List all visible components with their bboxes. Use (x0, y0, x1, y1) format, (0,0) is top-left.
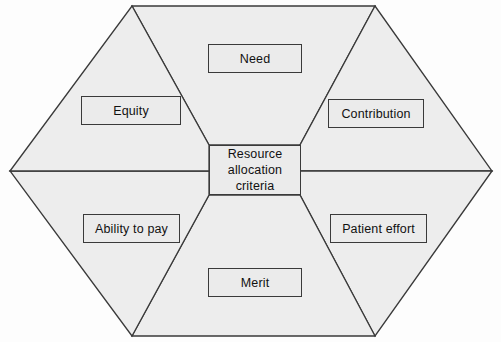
node-merit: Merit (208, 268, 302, 297)
diagram-canvas: Resource allocation criteria Need Contri… (0, 0, 501, 342)
node-need: Need (208, 44, 302, 73)
node-patient-effort: Patient effort (330, 214, 427, 243)
node-contribution-label: Contribution (341, 107, 410, 121)
center-node-resource-allocation-criteria: Resource allocation criteria (209, 145, 301, 195)
node-equity: Equity (81, 96, 181, 125)
node-ability-to-pay: Ability to pay (83, 214, 180, 243)
node-ability-to-pay-label: Ability to pay (95, 222, 168, 236)
node-need-label: Need (240, 52, 270, 66)
center-node-label: Resource allocation criteria (228, 146, 283, 194)
node-merit-label: Merit (241, 276, 270, 290)
node-equity-label: Equity (113, 104, 149, 118)
node-patient-effort-label: Patient effort (342, 222, 415, 236)
node-contribution: Contribution (328, 99, 424, 128)
